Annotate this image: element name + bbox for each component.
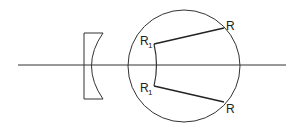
label-r1-bottom-sub: 1 [148,88,153,97]
label-r-top: R [226,19,235,33]
diagram-svg: R 1 R 1 R R [0,0,304,130]
label-r1-top-sub: 1 [148,41,153,50]
radius-line-bottom [154,86,224,102]
optics-diagram: R 1 R 1 R R [0,0,304,130]
radius-line-top [154,28,224,44]
sphere-circle [128,10,240,122]
concave-lens [84,33,103,99]
label-r-bottom: R [226,102,235,116]
